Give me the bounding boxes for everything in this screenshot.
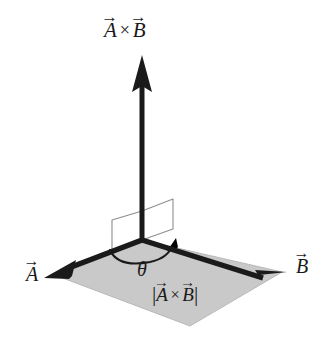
label-angle-theta: θ <box>137 259 147 279</box>
label-magnitude-b: →B <box>182 279 194 304</box>
label-cross-product-a: →A <box>104 14 117 41</box>
vector-accent-icon: → <box>154 274 169 289</box>
cross-product-figure: →A×→B →A →B θ |→A×→B| <box>0 0 335 348</box>
vector-accent-icon: → <box>101 9 118 26</box>
label-vector-a: →A <box>26 258 38 284</box>
vector-accent-icon: → <box>180 274 195 289</box>
cross-product-arrow <box>132 55 152 240</box>
label-magnitude-a: →A <box>156 279 168 304</box>
label-cross-product: →A×→B <box>104 14 146 41</box>
label-vector-a-base: →A <box>26 258 38 284</box>
vector-accent-icon: → <box>130 9 147 26</box>
vector-accent-icon: → <box>23 253 39 269</box>
vector-accent-icon: → <box>293 245 309 261</box>
label-cross-product-b: →B <box>133 14 146 41</box>
label-vector-b-base: →B <box>296 250 308 276</box>
label-vector-b: →B <box>296 250 308 276</box>
label-magnitude: |→A×→B| <box>152 279 198 305</box>
